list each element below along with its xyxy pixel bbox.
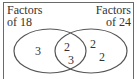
right-only-value-2: 2	[99, 50, 105, 64]
intersection-value-2: 3	[68, 53, 74, 67]
left-set-circle	[14, 29, 86, 73]
intersection-value-1: 2	[64, 40, 70, 54]
venn-diagram: 3 2 3 2 2	[0, 0, 137, 79]
right-only-value-1: 2	[90, 37, 96, 51]
left-only-value: 3	[35, 44, 41, 58]
